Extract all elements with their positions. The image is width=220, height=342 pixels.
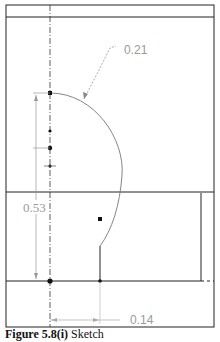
dim-arrowhead [93, 318, 99, 322]
sketch-arc[interactable] [50, 93, 122, 246]
caption-text: Sketch [68, 327, 104, 341]
leader-arrowhead [83, 92, 88, 99]
dim-arrowhead [34, 273, 38, 279]
caption-label: Figure 5.8(i) [5, 327, 68, 341]
radius-leader [84, 46, 116, 99]
dim-arrowhead [51, 318, 57, 322]
sketch-point[interactable] [48, 129, 51, 132]
arc-end-point[interactable] [98, 217, 102, 221]
outer-frame [6, 5, 214, 327]
dim-arrowhead [34, 95, 38, 101]
offset-dimension[interactable]: 0.14 [130, 313, 154, 327]
origin-point[interactable] [47, 278, 52, 283]
figure-caption: Figure 5.8(i) Sketch [5, 327, 104, 342]
height-dimension[interactable]: 0.53 [23, 200, 46, 215]
radius-dimension[interactable]: 0.21 [124, 43, 148, 57]
